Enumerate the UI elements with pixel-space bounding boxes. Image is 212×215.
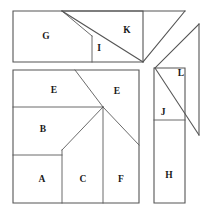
dissection-diagram: G I K L E E B A C F J H [0,0,212,215]
piece-label-l: L [178,68,184,78]
piece-label-h: H [165,170,173,180]
piece-label-e-top-right: E [114,86,120,96]
piece-label-k: K [123,25,131,35]
piece-label-i: I [97,43,101,53]
piece-label-g: G [42,31,50,41]
dissection-canvas: G I K L E E B A C F J H [0,0,212,215]
piece-label-b: B [40,124,47,134]
piece-label-j: J [161,107,166,117]
piece-label-f: F [118,174,124,184]
piece-label-e-top-left: E [51,85,57,95]
piece-label-c: C [80,174,87,184]
region-right-rectangle [154,68,185,203]
piece-label-a: A [39,174,46,184]
